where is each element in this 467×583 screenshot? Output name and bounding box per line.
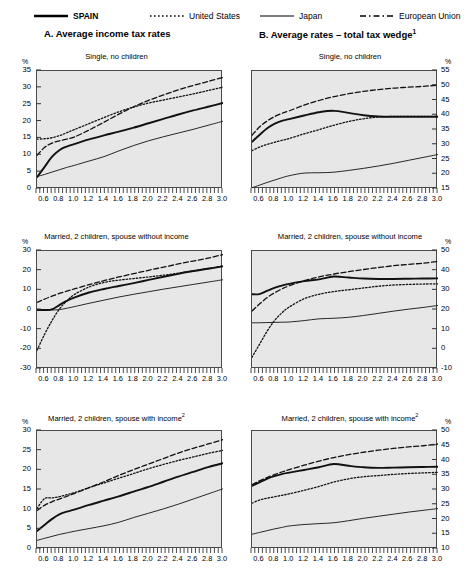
x-tick-label: 2.8 bbox=[199, 554, 215, 563]
x-tick-label: 1.6 bbox=[110, 194, 126, 203]
y-tick-label: 0 bbox=[0, 543, 31, 552]
y-tick-label: 15 bbox=[441, 528, 449, 537]
y-tick-label: 20 bbox=[441, 514, 449, 523]
series-canvas bbox=[37, 251, 223, 369]
x-tick-label: 0.8 bbox=[265, 374, 281, 383]
chart-subtitle-text: Married, 2 children, spouse with income bbox=[48, 414, 182, 423]
y-tick-label: 10 bbox=[0, 284, 31, 293]
series-line-japan bbox=[252, 154, 438, 187]
y-tick-label: 20 bbox=[441, 304, 449, 313]
series-canvas bbox=[252, 431, 438, 549]
y-tick-label: 15 bbox=[441, 183, 449, 192]
y-tick-label: 30 bbox=[0, 245, 31, 254]
series-line-united-states bbox=[37, 87, 223, 139]
x-tick-label: 2.8 bbox=[199, 194, 215, 203]
y-tick-label: 40 bbox=[441, 265, 449, 274]
x-tick-label: 1.4 bbox=[310, 374, 326, 383]
x-tick-label: 1.8 bbox=[340, 194, 356, 203]
chart-subtitle-text: Married, 2 children, spouse with income bbox=[282, 414, 416, 423]
x-tick-label: 1.4 bbox=[95, 194, 111, 203]
panel-b-title-text: B. Average rates – total tax wedge bbox=[259, 29, 412, 40]
x-tick-label: 3.0 bbox=[429, 194, 445, 203]
series-line-united-states bbox=[252, 472, 438, 503]
chart-b1: Single, no children%1520253035404550550.… bbox=[233, 44, 467, 214]
y-tick-label: -20 bbox=[0, 343, 31, 352]
x-tick-label: 2.0 bbox=[355, 194, 371, 203]
y-axis-unit-label: % bbox=[22, 238, 28, 245]
plot-area bbox=[36, 250, 222, 368]
x-tick-label: 2.0 bbox=[140, 554, 156, 563]
x-tick-label: 1.0 bbox=[280, 374, 296, 383]
y-tick-label: 20 bbox=[0, 265, 31, 274]
x-tick-label: 1.2 bbox=[295, 554, 311, 563]
y-tick-label: 5 bbox=[0, 166, 31, 175]
chart-a3: Married, 2 children, spouse with income2… bbox=[0, 404, 233, 579]
x-tick-label: 1.8 bbox=[340, 554, 356, 563]
chart-b3: Married, 2 children, spouse with income2… bbox=[233, 404, 467, 579]
x-tick-label: 0.6 bbox=[35, 374, 51, 383]
chart-subtitle: Single, no children bbox=[233, 52, 467, 61]
y-tick-label: 10 bbox=[0, 504, 31, 513]
x-tick-label: 1.0 bbox=[280, 194, 296, 203]
chart-a1: Single, no children%051015202530350.60.8… bbox=[0, 44, 233, 214]
x-tick-label: 1.4 bbox=[95, 554, 111, 563]
y-tick-label: 20 bbox=[441, 168, 449, 177]
y-tick-label: 50 bbox=[441, 80, 449, 89]
y-tick-label: 10 bbox=[441, 543, 449, 552]
x-tick-label: 1.6 bbox=[325, 554, 341, 563]
series-line-european-union bbox=[37, 77, 223, 155]
x-tick-label: 1.8 bbox=[125, 374, 141, 383]
y-axis-unit-label: % bbox=[445, 418, 451, 425]
y-tick-label: 10 bbox=[0, 149, 31, 158]
series-canvas bbox=[37, 71, 223, 189]
x-tick-label: 1.2 bbox=[80, 374, 96, 383]
panel-a-title: A. Average income tax rates bbox=[44, 28, 171, 39]
y-tick-label: 25 bbox=[441, 499, 449, 508]
x-tick-label: 2.0 bbox=[355, 374, 371, 383]
x-tick-label: 1.2 bbox=[80, 194, 96, 203]
chart-subtitle: Married, 2 children, spouse with income2 bbox=[233, 412, 467, 423]
x-tick-label: 2.2 bbox=[369, 194, 385, 203]
x-tick-label: 3.0 bbox=[214, 194, 230, 203]
series-canvas bbox=[252, 71, 438, 189]
x-tick-label: 0.8 bbox=[265, 194, 281, 203]
y-tick-label: 40 bbox=[441, 455, 449, 464]
x-tick-label: 2.4 bbox=[169, 554, 185, 563]
x-tick-label: 2.6 bbox=[399, 554, 415, 563]
legend-label-united-states: United States bbox=[189, 11, 240, 21]
y-tick-label: 30 bbox=[0, 82, 31, 91]
x-tick-label: 1.6 bbox=[325, 194, 341, 203]
plot-area bbox=[36, 70, 222, 188]
panel-b-footnote-marker: 1 bbox=[412, 28, 416, 35]
x-tick-label: 1.0 bbox=[280, 554, 296, 563]
x-tick-label: 3.0 bbox=[429, 554, 445, 563]
chart-subtitle-text: Married, 2 children, spouse without inco… bbox=[44, 232, 188, 241]
series-line-united-states bbox=[37, 450, 223, 508]
y-tick-label: 20 bbox=[0, 116, 31, 125]
legend-item-spain: SPAIN bbox=[34, 8, 98, 24]
series-canvas bbox=[252, 251, 438, 369]
y-axis-unit-label: % bbox=[445, 58, 451, 65]
x-tick-label: 1.0 bbox=[65, 194, 81, 203]
chart-subtitle-text: Single, no children bbox=[85, 52, 147, 61]
x-tick-label: 2.2 bbox=[369, 554, 385, 563]
legend-item-united-states: United States bbox=[150, 8, 240, 24]
x-tick-label: 0.6 bbox=[35, 554, 51, 563]
series-line-spain bbox=[252, 277, 438, 295]
x-tick-label: 3.0 bbox=[214, 374, 230, 383]
y-tick-label: -30 bbox=[0, 363, 31, 372]
legend-key-dotted-icon bbox=[150, 11, 184, 21]
x-tick-label: 1.4 bbox=[95, 374, 111, 383]
y-tick-label: 55 bbox=[441, 65, 449, 74]
chart-subtitle: Single, no children bbox=[0, 52, 233, 61]
y-tick-label: 30 bbox=[441, 139, 449, 148]
chart-subtitle: Married, 2 children, spouse with income2 bbox=[0, 412, 233, 423]
chart-a2: Married, 2 children, spouse without inco… bbox=[0, 224, 233, 394]
y-tick-label: 0 bbox=[0, 304, 31, 313]
x-tick-label: 2.8 bbox=[414, 554, 430, 563]
legend-key-bold-solid-icon bbox=[34, 11, 68, 21]
panel-b-title: B. Average rates – total tax wedge1 bbox=[259, 28, 416, 40]
series-canvas bbox=[37, 431, 223, 549]
x-tick-label: 0.8 bbox=[265, 554, 281, 563]
legend-item-european-union: European Union bbox=[360, 8, 460, 24]
